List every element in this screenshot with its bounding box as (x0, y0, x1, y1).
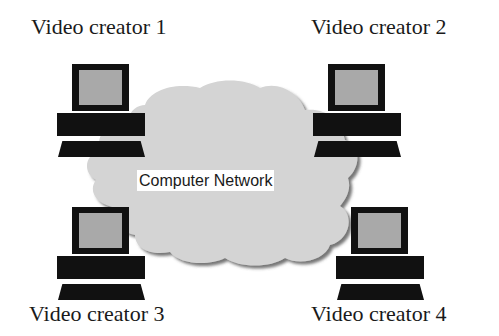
monitor (351, 207, 408, 254)
keyboard (58, 141, 145, 157)
computer-base (57, 256, 145, 279)
screen (335, 70, 378, 105)
screen (358, 213, 401, 248)
keyboard (58, 284, 145, 300)
desktop-computer-icon (57, 207, 147, 303)
monitor (72, 64, 129, 111)
monitor (328, 64, 385, 111)
monitor (72, 207, 129, 254)
desktop-computer-icon (336, 207, 426, 303)
node-label: Video creator 1 (31, 16, 167, 38)
node-label: Video creator 3 (29, 303, 165, 325)
keyboard (337, 284, 424, 300)
computer-base (57, 113, 145, 136)
screen (79, 213, 122, 248)
node-label: Video creator 4 (311, 303, 447, 325)
computer-base (336, 256, 424, 279)
network-label: Computer Network (137, 170, 274, 191)
desktop-computer-icon (313, 64, 403, 160)
node-label: Video creator 2 (311, 16, 447, 38)
screen (79, 70, 122, 105)
keyboard (314, 141, 401, 157)
computer-base (313, 113, 401, 136)
desktop-computer-icon (57, 64, 147, 160)
